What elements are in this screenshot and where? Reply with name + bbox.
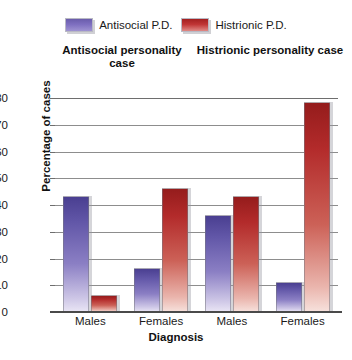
- bar-antisocial-males-1: [63, 196, 89, 312]
- bar-group-antisocial-case-males: [55, 98, 126, 312]
- bar-group-histrionic-case-females: [267, 98, 338, 312]
- y-tick-label-80: 80: [0, 92, 8, 104]
- y-tick-label-30: 30: [0, 226, 8, 238]
- bar-antisocial-males-2: [205, 215, 231, 312]
- legend-item-histrionic: Histrionic P.D.: [181, 18, 286, 32]
- bar-group-antisocial-case-females: [126, 98, 197, 312]
- y-tick-label-10: 10: [0, 279, 8, 291]
- bar-chart-figure: Antisocial P.D. Histrionic P.D. Antisoci…: [0, 0, 352, 360]
- y-tick-label-0: 0: [0, 306, 8, 318]
- group-header-histrionic-case: Histrionic personality case: [196, 44, 344, 70]
- legend-swatch-histrionic: [181, 18, 209, 32]
- bar-histrionic-females-2: [304, 102, 330, 312]
- chart-legend: Antisocial P.D. Histrionic P.D.: [0, 18, 352, 32]
- bar-group-histrionic-case-males: [197, 98, 268, 312]
- x-tick-label-males-1: Males: [55, 315, 126, 327]
- legend-label-histrionic: Histrionic P.D.: [215, 19, 286, 31]
- x-tick-label-males-2: Males: [197, 315, 268, 327]
- x-axis-title: Diagnosis: [0, 331, 352, 343]
- x-tick-label-females-2: Females: [267, 315, 338, 327]
- legend-swatch-antisocial: [65, 18, 93, 32]
- group-header-antisocial-case: Antisocial personality case: [48, 44, 196, 70]
- bar-histrionic-males-2: [233, 196, 259, 312]
- legend-item-antisocial: Antisocial P.D.: [65, 18, 172, 32]
- bar-histrionic-males-1: [91, 295, 117, 312]
- x-axis-tick-labels: Males Females Males Females: [55, 315, 338, 327]
- legend-label-antisocial: Antisocial P.D.: [99, 19, 172, 31]
- y-tick-label-20: 20: [0, 253, 8, 265]
- x-axis-line: [50, 311, 342, 313]
- bar-antisocial-females-1: [134, 268, 160, 312]
- y-axis-title: Percentage of cases: [40, 56, 52, 216]
- y-tick-label-70: 70: [0, 119, 8, 131]
- bar-antisocial-females-2: [276, 282, 302, 312]
- group-headers: Antisocial personality case Histrionic p…: [48, 44, 344, 70]
- y-tick-label-60: 60: [0, 146, 8, 158]
- x-tick-label-females-1: Females: [126, 315, 197, 327]
- bar-histrionic-females-1: [162, 188, 188, 312]
- plot-area: [55, 98, 338, 312]
- y-tick-label-50: 50: [0, 172, 8, 184]
- y-tick-label-40: 40: [0, 199, 8, 211]
